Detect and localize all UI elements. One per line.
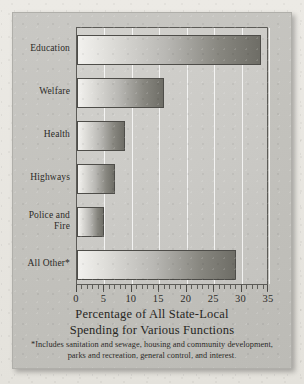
category-label: Police and Fire <box>29 210 70 232</box>
x-tick-label: 20 <box>180 293 191 304</box>
minor-tick <box>257 285 258 289</box>
caption-line-2: Spending for Various Functions <box>13 322 291 338</box>
minor-tick <box>125 285 126 289</box>
plot-area <box>76 27 268 285</box>
minor-tick <box>87 285 88 289</box>
minor-tick <box>202 285 203 289</box>
gridline <box>269 28 270 284</box>
gridline <box>159 28 160 284</box>
x-tick-label: 15 <box>153 293 164 304</box>
category-label: Highways <box>30 172 70 183</box>
minor-tick <box>81 285 82 289</box>
bar <box>77 35 261 65</box>
bar <box>77 78 164 108</box>
major-tick <box>186 285 187 292</box>
gridline <box>214 28 215 284</box>
bar <box>77 250 236 280</box>
major-tick <box>241 285 242 292</box>
minor-tick <box>246 285 247 289</box>
minor-tick <box>169 285 170 289</box>
chart-panel: EducationWelfareHealthHighwaysPolice and… <box>12 12 292 369</box>
gridline <box>104 28 105 284</box>
gridline <box>242 28 243 284</box>
minor-tick <box>153 285 154 289</box>
minor-tick <box>109 285 110 289</box>
minor-tick <box>142 285 143 289</box>
bar <box>77 164 115 194</box>
x-tick-label: 30 <box>235 293 246 304</box>
major-tick <box>267 285 268 292</box>
bar <box>77 207 104 237</box>
axis-caption: Percentage of All State-Local Spending f… <box>13 306 291 338</box>
x-tick-label: 25 <box>208 293 219 304</box>
major-tick <box>76 285 77 292</box>
minor-tick <box>120 285 121 289</box>
minor-tick <box>175 285 176 289</box>
gridline <box>187 28 188 284</box>
x-axis-ticks <box>76 285 268 292</box>
minor-tick <box>252 285 253 289</box>
category-label: All Other* <box>28 258 70 269</box>
major-tick <box>158 285 159 292</box>
minor-tick <box>263 285 264 289</box>
minor-tick <box>219 285 220 289</box>
category-axis-labels: EducationWelfareHealthHighwaysPolice and… <box>13 27 74 285</box>
minor-tick <box>98 285 99 289</box>
minor-tick <box>136 285 137 289</box>
minor-tick <box>180 285 181 289</box>
gridline <box>132 28 133 284</box>
minor-tick <box>208 285 209 289</box>
major-tick <box>213 285 214 292</box>
minor-tick <box>147 285 148 289</box>
footnote: *Includes sanitation and sewage, housing… <box>21 340 283 361</box>
x-tick-label: 0 <box>73 293 78 304</box>
minor-tick <box>235 285 236 289</box>
x-tick-label: 10 <box>125 293 136 304</box>
minor-tick <box>114 285 115 289</box>
x-tick-label: 5 <box>101 293 106 304</box>
category-label: Education <box>30 43 70 54</box>
minor-tick <box>191 285 192 289</box>
x-tick-label: 35 <box>263 293 274 304</box>
minor-tick <box>224 285 225 289</box>
major-tick <box>131 285 132 292</box>
major-tick <box>103 285 104 292</box>
bar <box>77 121 125 151</box>
minor-tick <box>197 285 198 289</box>
minor-tick <box>164 285 165 289</box>
category-label: Welfare <box>39 86 70 97</box>
caption-line-1: Percentage of All State-Local <box>13 306 291 322</box>
minor-tick <box>230 285 231 289</box>
x-axis-tick-labels: 05101520253035 <box>76 293 268 307</box>
minor-tick <box>92 285 93 289</box>
category-label: Health <box>44 129 70 140</box>
